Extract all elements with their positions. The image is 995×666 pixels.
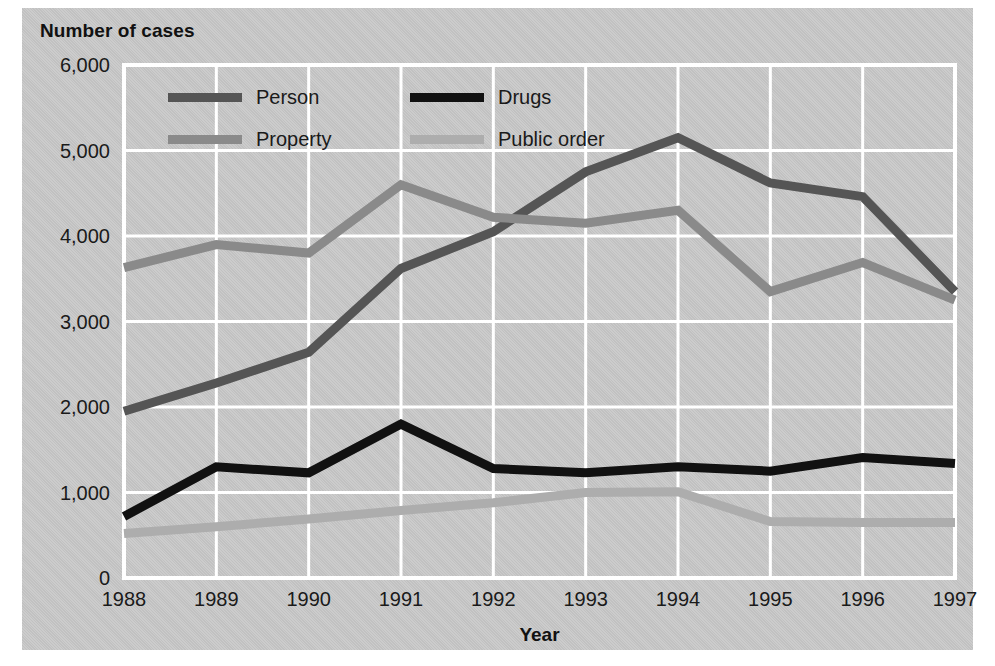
- x-tick-label: 1996: [840, 588, 885, 610]
- legend-label-person: Person: [256, 86, 319, 109]
- y-tick-label: 5,000: [60, 140, 110, 162]
- y-tick-label: 0: [99, 567, 110, 589]
- y-tick-labels: 01,0002,0003,0004,0005,0006,000: [60, 54, 110, 589]
- x-tick-label: 1994: [656, 588, 701, 610]
- x-tick-label: 1995: [748, 588, 793, 610]
- x-axis-title: Year: [519, 624, 560, 645]
- y-tick-label: 4,000: [60, 225, 110, 247]
- x-tick-labels: 1988198919901991199219931994199519961997: [102, 588, 978, 610]
- legend-label-drugs: Drugs: [498, 86, 551, 109]
- x-tick-label: 1997: [933, 588, 978, 610]
- legend-swatch-drugs: [410, 93, 484, 102]
- x-tick-label: 1993: [563, 588, 608, 610]
- x-tick-label: 1988: [102, 588, 147, 610]
- legend-swatch-person: [168, 93, 242, 102]
- x-tick-label: 1989: [194, 588, 239, 610]
- legend-swatch-property: [168, 135, 242, 144]
- x-tick-label: 1991: [379, 588, 424, 610]
- legend-swatch-public-order: [410, 135, 484, 144]
- chart-screenshot: Number of cases 01,0002,0003,0004,0005,0…: [0, 0, 995, 666]
- y-tick-label: 6,000: [60, 54, 110, 76]
- x-tick-label: 1992: [471, 588, 516, 610]
- legend-label-public-order: Public order: [498, 128, 605, 151]
- x-tick-label: 1990: [286, 588, 331, 610]
- y-tick-label: 2,000: [60, 396, 110, 418]
- series-line-public-order: [124, 492, 955, 534]
- legend-label-property: Property: [256, 128, 332, 151]
- series-line-drugs: [124, 424, 955, 516]
- y-tick-label: 3,000: [60, 311, 110, 333]
- y-tick-label: 1,000: [60, 482, 110, 504]
- series-group: [124, 138, 955, 534]
